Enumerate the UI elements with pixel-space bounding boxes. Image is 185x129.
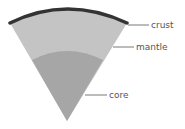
mantle-label: mantle [136, 42, 168, 52]
earth-layers-diagram: crust mantle core [0, 0, 185, 129]
core-layer [32, 51, 103, 121]
crust-label: crust [151, 20, 174, 30]
core-label: core [109, 90, 129, 100]
